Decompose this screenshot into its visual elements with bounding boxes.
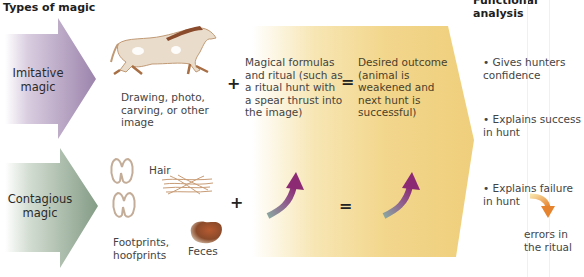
text-line: next hunt is	[358, 94, 448, 107]
caption-line: Drawing, photo,	[121, 91, 209, 104]
hoofprint-icon	[108, 155, 138, 225]
curved-arrow-icon	[378, 168, 423, 223]
curved-arrow-icon	[262, 168, 307, 223]
label-line: magic	[8, 80, 68, 94]
text-line: a ritual hunt with	[245, 81, 343, 94]
bullet-text: confidence	[492, 69, 582, 82]
plus-sign: +	[230, 193, 243, 212]
equals-sign: =	[339, 196, 352, 215]
horse-cave-painting-icon	[108, 22, 223, 82]
function-bullet: • Gives hunters confidence	[483, 56, 582, 81]
image-caption: Drawing, photo, carving, or other image	[121, 91, 209, 129]
label-line: magic	[4, 206, 76, 220]
failure-result: errors in the ritual	[524, 228, 572, 253]
function-bullet: • Explains success in hunt	[483, 113, 584, 138]
plus-sign: +	[227, 74, 240, 93]
bullet-text: in hunt	[492, 126, 584, 139]
text-line: Magical formulas	[245, 56, 343, 69]
imitative-magic-label: Imitative magic	[8, 66, 68, 94]
feces-caption: Feces	[188, 245, 218, 258]
hair-icon	[160, 172, 215, 198]
footprints-caption: Footprints, hoofprints	[113, 236, 169, 261]
text-line: successful)	[358, 106, 448, 119]
bullet-text: Gives hunters	[493, 56, 566, 68]
contagious-magic-label: Contagious magic	[4, 192, 76, 220]
equals-sign: =	[341, 72, 354, 91]
label-line: Contagious	[4, 192, 76, 206]
label-line: Imitative	[8, 66, 68, 80]
caption-line: carving, or other	[121, 104, 209, 117]
bullet-text: Explains success	[493, 113, 581, 125]
text-line: (animal is	[358, 69, 448, 82]
caption-line: hoofprints	[113, 249, 169, 262]
text-line: and ritual (such as	[245, 69, 343, 82]
text-line: the image)	[245, 106, 343, 119]
feces-icon	[187, 219, 225, 245]
caption-line: image	[121, 116, 209, 129]
text-line: weakened and	[358, 81, 448, 94]
text-line: errors in	[524, 228, 572, 241]
text-line: a spear thrust into	[245, 94, 343, 107]
text-line: the ritual	[524, 241, 572, 254]
ritual-description: Magical formulas and ritual (such as a r…	[245, 56, 343, 119]
desired-outcome: Desired outcome (animal is weakened and …	[358, 56, 448, 119]
text-line: Desired outcome	[358, 56, 448, 69]
result-arrow-icon	[528, 193, 558, 221]
caption-line: Footprints,	[113, 236, 169, 249]
